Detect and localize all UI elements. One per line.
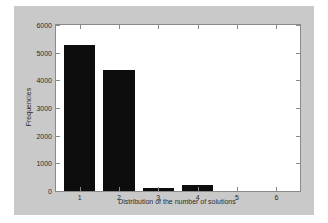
x-tick-bottom [198, 187, 199, 191]
y-tick-right [296, 191, 300, 192]
x-tick-bottom [237, 187, 238, 191]
x-tick-bottom [276, 187, 277, 191]
figure-background: 0100020003000400050006000123456 Distribu… [14, 6, 314, 215]
x-axis-title: Distribution of the number of solutions [55, 198, 299, 205]
y-tick-label: 5000 [36, 49, 52, 56]
y-tick-label: 1000 [36, 160, 52, 167]
y-tick-right [296, 163, 300, 164]
x-tick-top [276, 25, 277, 29]
y-tick-left [56, 191, 60, 192]
x-tick-bottom [119, 187, 120, 191]
y-tick-right [296, 53, 300, 54]
y-axis-title: Frequencies [25, 88, 32, 127]
y-tick-label: 3000 [36, 105, 52, 112]
bar-1 [64, 45, 95, 191]
y-tick-label: 2000 [36, 132, 52, 139]
y-tick-right [296, 136, 300, 137]
x-tick-top [198, 25, 199, 29]
y-tick-left [56, 80, 60, 81]
y-tick-left [56, 25, 60, 26]
y-tick-label: 4000 [36, 77, 52, 84]
y-tick-label: 0 [48, 188, 52, 195]
bar-2 [103, 70, 134, 191]
x-tick-top [237, 25, 238, 29]
y-tick-right [296, 25, 300, 26]
y-tick-left [56, 163, 60, 164]
y-tick-left [56, 53, 60, 54]
chart-axes: 0100020003000400050006000123456 [55, 24, 301, 192]
y-tick-right [296, 80, 300, 81]
y-tick-left [56, 108, 60, 109]
x-tick-top [119, 25, 120, 29]
x-tick-bottom [158, 187, 159, 191]
x-tick-top [80, 25, 81, 29]
x-tick-top [158, 25, 159, 29]
y-tick-label: 6000 [36, 22, 52, 29]
plot-area [56, 25, 300, 191]
y-tick-left [56, 136, 60, 137]
y-tick-right [296, 108, 300, 109]
x-tick-bottom [80, 187, 81, 191]
